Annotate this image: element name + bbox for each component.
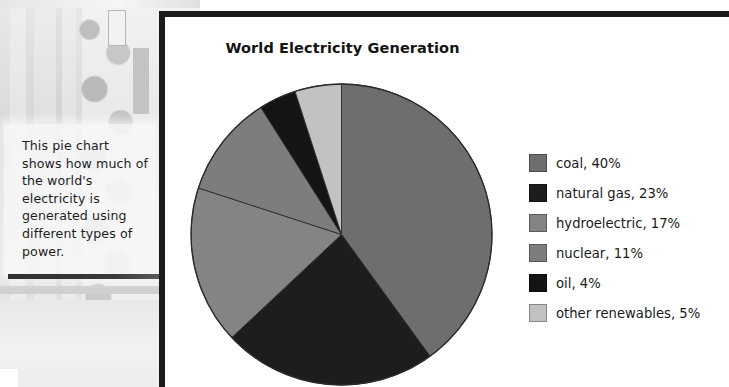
legend-swatch-icon bbox=[529, 184, 547, 202]
pie-chart bbox=[190, 83, 493, 386]
legend-item[interactable]: oil, 4% bbox=[529, 268, 725, 298]
photo-post bbox=[133, 48, 149, 114]
legend-swatch-icon bbox=[529, 304, 547, 322]
legend-item[interactable]: natural gas, 23% bbox=[529, 178, 725, 208]
legend-item-label: other renewables, 5% bbox=[556, 306, 700, 321]
slide-page: This pie chart shows how much of the wor… bbox=[0, 0, 729, 387]
legend-item-label: nuclear, 11% bbox=[556, 246, 643, 261]
legend-swatch-icon bbox=[529, 274, 547, 292]
legend-item[interactable]: other renewables, 5% bbox=[529, 298, 725, 328]
photo-window bbox=[108, 10, 126, 46]
legend-item-label: natural gas, 23% bbox=[556, 186, 668, 201]
legend-swatch-icon bbox=[529, 154, 547, 172]
photo-corner-highlight bbox=[0, 369, 18, 387]
pie-chart-svg bbox=[190, 83, 493, 386]
legend-item-label: coal, 40% bbox=[556, 156, 621, 171]
legend-item-label: hydroelectric, 17% bbox=[556, 216, 680, 231]
pie-slice-group bbox=[191, 84, 492, 385]
legend-item[interactable]: hydroelectric, 17% bbox=[529, 208, 725, 238]
chart-legend: coal, 40%natural gas, 23%hydroelectric, … bbox=[529, 148, 725, 328]
legend-item-label: oil, 4% bbox=[556, 276, 601, 291]
legend-item[interactable]: nuclear, 11% bbox=[529, 238, 725, 268]
legend-swatch-icon bbox=[529, 214, 547, 232]
photo-ledge bbox=[0, 286, 180, 294]
legend-item[interactable]: coal, 40% bbox=[529, 148, 725, 178]
caption-card-shadow bbox=[8, 274, 160, 279]
legend-swatch-icon bbox=[529, 244, 547, 262]
chart-title: World Electricity Generation bbox=[190, 40, 495, 56]
caption-text: This pie chart shows how much of the wor… bbox=[22, 137, 152, 260]
